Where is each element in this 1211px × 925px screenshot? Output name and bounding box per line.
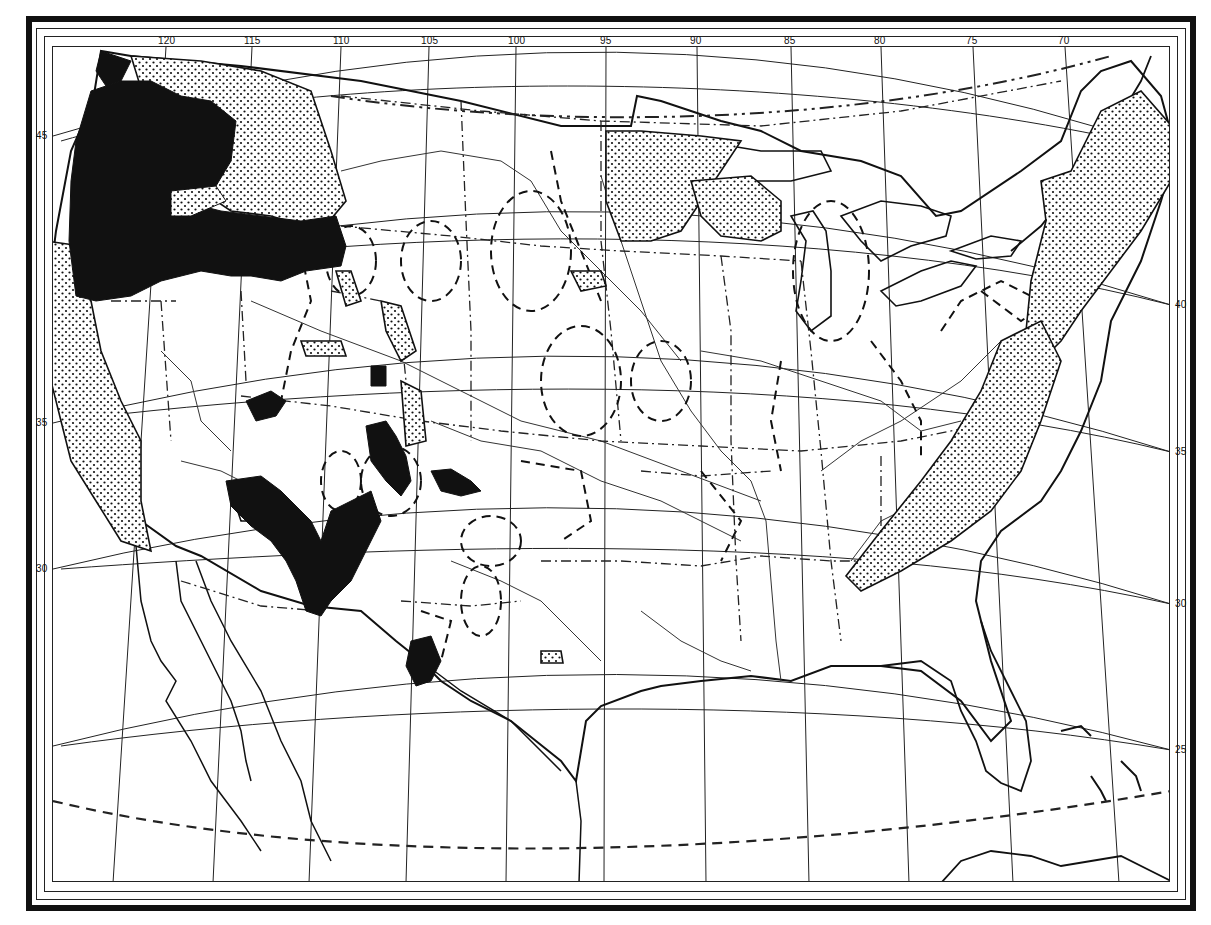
longitude-label: 90 <box>690 35 702 46</box>
longitude-label: 105 <box>421 35 438 46</box>
us-map-svg <box>53 47 1170 882</box>
longitude-label: 80 <box>874 35 886 46</box>
latitude-label-left: 35 <box>36 417 48 428</box>
dashed-arc-south <box>53 791 1170 849</box>
latitude-label-right: 35 <box>1175 446 1187 457</box>
latitude-label-left: 45 <box>36 130 48 141</box>
longitude-label: 120 <box>158 35 175 46</box>
latitude-label-left: 30 <box>36 563 48 574</box>
latitude-label-right: 25 <box>1175 744 1187 755</box>
longitude-label: 85 <box>784 35 796 46</box>
longitude-label: 100 <box>508 35 525 46</box>
longitude-label: 95 <box>600 35 612 46</box>
longitude-label: 70 <box>1058 35 1070 46</box>
cuba-outline <box>941 851 1170 882</box>
longitude-label: 115 <box>244 35 261 46</box>
latitude-label-right: 30 <box>1175 598 1187 609</box>
map-canvas <box>52 46 1170 882</box>
bahamas <box>1061 726 1141 801</box>
latitude-label-right: 40 <box>1175 299 1187 310</box>
longitude-label: 110 <box>333 35 350 46</box>
longitude-label: 75 <box>966 35 978 46</box>
